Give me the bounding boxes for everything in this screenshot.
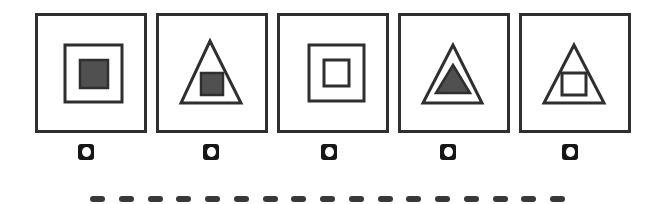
answer-line-dash	[90, 196, 105, 202]
option-panels-row	[35, 13, 631, 133]
outline-square-shape	[562, 73, 586, 95]
puzzle-canvas	[0, 0, 661, 204]
answer-line-dash	[435, 196, 450, 202]
option-radio-3[interactable]	[321, 144, 337, 160]
answer-line-dash	[291, 196, 306, 202]
filled-square-shape	[201, 73, 223, 95]
option-panel-3	[277, 13, 389, 133]
answer-line-dash	[176, 196, 191, 202]
option-radio-5[interactable]	[562, 144, 578, 160]
answer-line-dash	[550, 196, 565, 202]
option-panel-5-figure	[522, 16, 628, 130]
answer-line-dash	[406, 196, 421, 202]
option-radio-1[interactable]	[78, 144, 94, 160]
outline-square-shape	[324, 60, 349, 86]
option-panel-2	[156, 13, 268, 133]
answer-dashed-line	[90, 196, 565, 202]
option-panel-2-figure	[159, 16, 265, 130]
answer-line-dash	[320, 196, 335, 202]
answer-line-dash	[378, 196, 393, 202]
option-panel-3-figure	[280, 16, 386, 130]
filled-square-shape	[80, 60, 108, 88]
answer-line-dash	[119, 196, 134, 202]
answer-line-dash	[493, 196, 508, 202]
outline-square-shape	[309, 45, 364, 101]
answer-line-dash	[148, 196, 163, 202]
answer-line-dash	[464, 196, 479, 202]
option-radio-2[interactable]	[203, 144, 219, 160]
option-panel-4-figure	[401, 16, 507, 130]
option-panel-1	[35, 13, 147, 133]
answer-line-dash	[521, 196, 536, 202]
answer-line-dash	[205, 196, 220, 202]
answer-line-dash	[263, 196, 278, 202]
option-radio-4[interactable]	[440, 144, 456, 160]
answer-line-dash	[234, 196, 249, 202]
option-radio-1-dot	[82, 147, 91, 157]
option-panel-5	[519, 13, 631, 133]
answer-line-dash	[349, 196, 364, 202]
option-radio-4-dot	[444, 147, 453, 157]
option-radio-5-dot	[566, 147, 575, 157]
option-panel-4	[398, 13, 510, 133]
option-panel-1-figure	[38, 16, 144, 130]
option-radio-2-dot	[207, 147, 216, 157]
option-buttons-row	[0, 144, 661, 160]
option-radio-3-dot	[325, 147, 334, 157]
